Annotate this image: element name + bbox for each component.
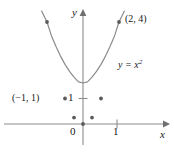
data-point [45, 20, 49, 24]
x-axis-label: x [160, 129, 165, 140]
equation-lhs: y = x [118, 59, 139, 70]
point-label-2-4: (2, 4) [125, 14, 147, 24]
data-point [90, 116, 94, 120]
x-tick-label-1: 1 [113, 126, 119, 137]
x-axis-arrow-icon [163, 121, 170, 128]
equation-label: y = x2 [118, 60, 142, 70]
y-axis-arrow-icon [80, 9, 87, 16]
data-point [81, 122, 85, 126]
point-label-neg1-1: (−1, 1) [12, 93, 39, 103]
origin-label: 0 [70, 126, 76, 137]
plot-canvas [0, 0, 174, 154]
y-tick-label-1: 1 [68, 92, 74, 103]
data-point [72, 116, 76, 120]
data-point [99, 97, 103, 101]
y-axis-label: y [72, 7, 77, 18]
parabola-figure: 0 1 1 x y (−1, 1) (2, 4) y = x2 [0, 0, 174, 154]
data-point [63, 97, 67, 101]
data-point [117, 20, 121, 24]
equation-exponent: 2 [139, 58, 143, 66]
